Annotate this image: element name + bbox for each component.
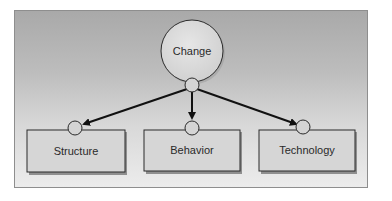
change-node: Change bbox=[161, 20, 225, 84]
structure-label: Structure bbox=[54, 145, 99, 157]
behavior-node: Behavior bbox=[144, 130, 242, 174]
behavior-label: Behavior bbox=[170, 144, 214, 156]
change-label: Change bbox=[173, 45, 212, 57]
structure-connector-icon bbox=[68, 121, 82, 135]
change-connector-icon bbox=[185, 78, 199, 92]
arrow-to-technology bbox=[194, 88, 296, 124]
behavior-connector-icon bbox=[185, 121, 199, 135]
technology-connector-icon bbox=[296, 120, 310, 134]
technology-label: Technology bbox=[279, 144, 335, 156]
arrows bbox=[84, 88, 296, 124]
technology-node: Technology bbox=[259, 130, 357, 174]
change-diagram: Change Structure Behavior Technology bbox=[0, 0, 392, 201]
arrow-to-structure bbox=[84, 88, 190, 124]
structure-node: Structure bbox=[27, 130, 127, 175]
